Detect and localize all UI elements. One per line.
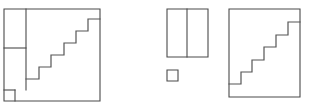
middle-figure: [167, 9, 208, 81]
middle-figure-small-square-piece: [167, 70, 178, 81]
right-figure: [229, 9, 300, 97]
diagram-container: [0, 0, 313, 111]
diagram-svg: [0, 0, 313, 111]
left-figure: [4, 9, 100, 101]
